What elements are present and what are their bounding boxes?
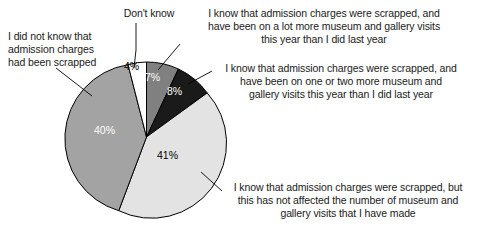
callout-line: admission charges bbox=[8, 43, 128, 56]
callout-line: I know that admission charges were scrap… bbox=[207, 62, 475, 75]
slice-value-one-or-two-more: 8% bbox=[167, 86, 182, 97]
callout-line: had been scrapped bbox=[8, 56, 128, 69]
callout-line: I did not know that bbox=[8, 30, 128, 43]
callout-line: have been on a lot more museum and galle… bbox=[174, 20, 474, 33]
callout-line: this has not affected the number of muse… bbox=[222, 194, 474, 207]
leader-line-did-not-know bbox=[56, 68, 92, 96]
callout-lot-more: I know that admission charges were scrap… bbox=[174, 7, 474, 47]
slice-value-did-not-know: 40% bbox=[94, 125, 115, 136]
pie-chart-figure: 4% 7% 8% 41% 40% Don't know I did not kn… bbox=[0, 0, 481, 231]
callout-line: gallery visits this year than I did last… bbox=[207, 88, 475, 101]
slice-value-lot-more: 7% bbox=[145, 72, 160, 83]
callout-one-or-two-more: I know that admission charges were scrap… bbox=[207, 62, 475, 102]
callout-line: this year than I did last year bbox=[174, 33, 474, 46]
callout-did-not-know: I did not know that admission charges ha… bbox=[8, 30, 128, 70]
slice-value-not-affected: 41% bbox=[157, 150, 178, 161]
callout-line: I know that admission charges were scrap… bbox=[222, 181, 474, 194]
callout-line: have been on one or two more museum and bbox=[207, 75, 475, 88]
callout-line: gallery visits that I have made bbox=[222, 207, 474, 220]
callout-line: I know that admission charges were scrap… bbox=[174, 7, 474, 20]
callout-not-affected: I know that admission charges were scrap… bbox=[222, 181, 474, 221]
